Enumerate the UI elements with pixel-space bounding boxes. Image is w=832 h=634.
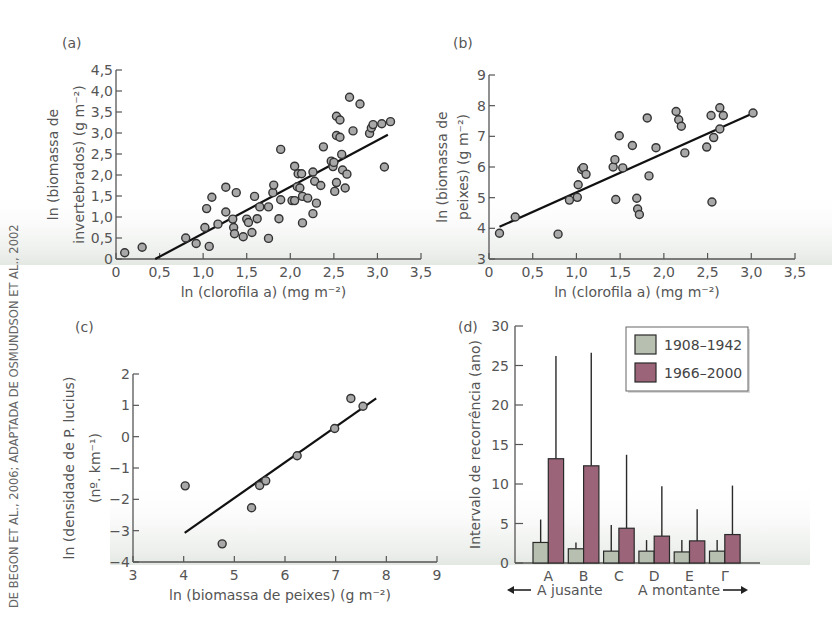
y-tick-label: 25 (491, 358, 509, 374)
data-point (232, 189, 240, 197)
data-point (277, 196, 285, 204)
data-point (347, 394, 355, 402)
y-axis-label: ln (biomassa de (434, 111, 450, 222)
y-tick-label: 1,0 (91, 209, 113, 225)
data-point (138, 243, 146, 251)
data-point (652, 144, 660, 152)
y-tick-label: 0 (121, 429, 130, 445)
y-tick-label: −1 (109, 460, 130, 476)
x-tick-label: 1,5 (609, 264, 631, 280)
data-point (565, 196, 573, 204)
data-point (635, 211, 643, 219)
y-tick-label: 2,0 (91, 167, 113, 183)
data-point (256, 203, 264, 211)
data-point (312, 199, 320, 207)
category-label: C (614, 568, 624, 584)
data-point (681, 149, 689, 157)
data-point (716, 104, 724, 112)
direction-downstream-label: A jusante (537, 582, 603, 598)
x-tick-label: 4 (179, 567, 188, 583)
x-tick-label: 3,5 (784, 264, 806, 280)
data-point (349, 127, 357, 135)
data-point (710, 134, 718, 142)
y-tick-label: 0,5 (91, 230, 113, 246)
data-point (192, 239, 200, 247)
bar (568, 549, 583, 563)
y-tick-label: 4,0 (91, 83, 113, 99)
data-point (707, 111, 715, 119)
data-point (248, 229, 256, 237)
y-tick-label: −2 (109, 491, 130, 507)
y-tick-label: 3,0 (91, 125, 113, 141)
bar (710, 551, 725, 563)
data-point (214, 220, 222, 228)
data-point (222, 183, 230, 191)
x-tick-label: 2,5 (696, 264, 718, 280)
data-point (201, 224, 209, 232)
data-point (573, 193, 581, 201)
legend-label: 1966–2000 (664, 365, 742, 381)
data-point (218, 540, 226, 548)
data-point (229, 215, 237, 223)
data-point (277, 145, 285, 153)
y-tick-label: 3,5 (91, 104, 113, 120)
data-point (511, 213, 519, 221)
data-point (331, 187, 339, 195)
data-point (309, 210, 317, 218)
data-point (265, 234, 273, 242)
data-point (380, 163, 388, 171)
data-point (495, 229, 503, 237)
data-point (619, 164, 627, 172)
panel-label: (b) (453, 35, 473, 51)
x-tick-label: 1,0 (565, 264, 587, 280)
bar (674, 552, 689, 563)
x-tick-label: 3,0 (366, 264, 388, 280)
y-tick-label: 2,5 (91, 146, 113, 162)
bar (584, 466, 599, 563)
data-point (270, 181, 278, 189)
y-tick-label: 5 (477, 190, 486, 206)
direction-upstream-label: A montante (638, 582, 720, 598)
x-tick-label: 8 (382, 567, 391, 583)
data-point (121, 249, 129, 257)
bar (690, 541, 705, 563)
data-point (719, 111, 727, 119)
data-point (677, 122, 685, 130)
y-tick-label: 1 (121, 397, 130, 413)
x-tick-label: 7 (331, 567, 340, 583)
y-tick-label: 5 (500, 516, 509, 532)
data-point (336, 116, 344, 124)
panel-d: (d)051015202530Intervalo de recorrência … (458, 318, 760, 598)
data-point (269, 189, 277, 197)
data-point (331, 425, 339, 433)
bar (604, 551, 619, 563)
data-point (298, 170, 306, 178)
data-point (262, 477, 270, 485)
data-point (205, 242, 213, 250)
x-axis-label: ln (clorofila a) (mg m⁻²) (554, 284, 720, 300)
bar (654, 536, 669, 563)
y-axis-label-line2: peixes) (g m⁻²) (455, 114, 471, 220)
data-point (672, 107, 680, 115)
y-tick-label: 1,5 (91, 188, 113, 204)
y-tick-label: −3 (109, 523, 130, 539)
data-point (296, 184, 304, 192)
data-point (244, 218, 252, 226)
data-point (181, 482, 189, 490)
data-point (182, 234, 190, 242)
y-tick-label: 4 (477, 220, 486, 236)
x-tick-label: 1,5 (236, 264, 258, 280)
y-tick-label: 0 (500, 555, 509, 571)
data-point (208, 193, 216, 201)
y-axis-label-line2: (nº. km⁻¹) (87, 433, 103, 503)
y-tick-label: 8 (477, 98, 486, 114)
y-tick-label: 4,5 (91, 62, 113, 78)
panel-label: (a) (62, 35, 82, 51)
data-point (298, 219, 306, 227)
data-point (703, 143, 711, 151)
data-point (359, 402, 367, 410)
data-point (336, 133, 344, 141)
y-axis-label: ln (densidade de P. lucius) (61, 377, 77, 560)
data-point (253, 215, 261, 223)
data-point (341, 184, 349, 192)
